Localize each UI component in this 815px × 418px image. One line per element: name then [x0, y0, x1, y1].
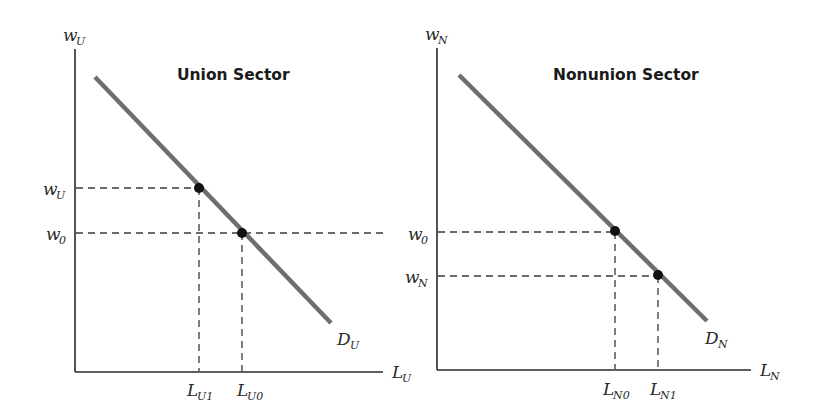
nonunion-demand-curve: [459, 75, 707, 321]
nonunion-sector-title: Nonunion Sector: [553, 66, 699, 84]
union-y-tick-wu: w U: [43, 179, 66, 202]
union-x-tick-lu0: L U0: [236, 380, 263, 403]
svg-text:N: N: [717, 338, 728, 351]
union-initial-point: [237, 228, 247, 238]
svg-text:N: N: [437, 34, 448, 47]
svg-text:0: 0: [421, 234, 428, 247]
svg-text:U: U: [402, 372, 412, 385]
nonunion-y-tick-w0: w 0: [408, 224, 428, 247]
nonunion-demand-label: D N: [704, 328, 728, 351]
svg-text:U: U: [350, 339, 360, 352]
union-sector-title: Union Sector: [177, 66, 290, 84]
nonunion-x-tick-ln0: L N0: [602, 379, 630, 402]
union-demand-label: D U: [336, 329, 360, 352]
union-x-axis-label: L U: [391, 362, 412, 385]
nonunion-sector-panel: Nonunion Sector w N L N D N w: [405, 24, 780, 402]
svg-text:U0: U0: [247, 390, 263, 403]
union-x-tick-lu1: L U1: [186, 380, 213, 403]
union-sector-panel: Union Sector w U L U D U w: [43, 25, 412, 403]
svg-text:U: U: [56, 189, 66, 202]
nonunion-x-axis-label: L N: [759, 360, 780, 383]
nonunion-wage-point: [653, 270, 663, 280]
svg-text:N1: N1: [659, 389, 677, 402]
nonunion-y-axis-label: w N: [425, 24, 448, 47]
svg-text:N: N: [417, 277, 428, 290]
union-demand-curve: [95, 77, 331, 323]
union-y-tick-w0: w 0: [46, 224, 66, 247]
nonunion-x-tick-ln1: L N1: [649, 379, 677, 402]
svg-text:0: 0: [59, 234, 66, 247]
svg-text:U: U: [76, 35, 86, 48]
svg-text:N: N: [769, 370, 780, 383]
nonunion-initial-point: [610, 226, 620, 236]
nonunion-y-tick-wn: w N: [405, 267, 428, 290]
svg-text:D: D: [704, 328, 719, 348]
union-wage-point: [194, 183, 204, 193]
svg-text:D: D: [336, 329, 351, 349]
union-y-axis-label: w U: [63, 25, 86, 48]
diagram-canvas: Union Sector w U L U D U w: [0, 0, 815, 418]
svg-text:U1: U1: [197, 390, 213, 403]
svg-text:N0: N0: [612, 389, 630, 402]
